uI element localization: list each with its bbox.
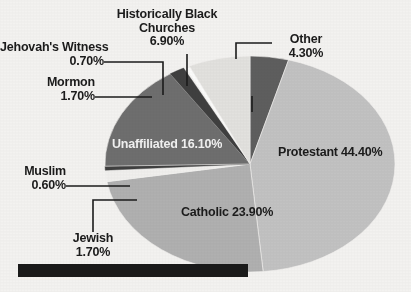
label-catholic-name: Catholic: [181, 205, 229, 219]
label-protestant: Protestant 44.40%: [278, 145, 362, 159]
label-mormon: Mormon 1.70%: [0, 76, 95, 103]
pie-chart-figure: Historically Black Churches 6.90% Other …: [0, 0, 411, 292]
label-protestant-pct: 44.40%: [341, 145, 382, 159]
label-jehovahs-witness-name: Jehovah's Witness: [0, 40, 109, 54]
label-jewish-pct: 1.70%: [56, 246, 130, 260]
label-jewish-name: Jewish: [73, 231, 114, 245]
pie-slices: [105, 56, 395, 272]
label-muslim: Muslim 0.60%: [0, 165, 66, 192]
label-jehovahs-witness: Jehovah's Witness 0.70%: [0, 41, 104, 68]
redaction-bar: [18, 264, 248, 277]
label-other-pct: 4.30%: [270, 47, 342, 61]
label-unaffiliated-pct: 16.10%: [181, 137, 222, 151]
label-unaffiliated-name: Unaffiliated: [112, 137, 178, 151]
label-jewish: Jewish 1.70%: [56, 232, 130, 259]
label-catholic: Catholic 23.90%: [181, 205, 261, 219]
label-protestant-name: Protestant: [278, 145, 338, 159]
label-mormon-pct: 1.70%: [0, 90, 95, 104]
label-other-name: Other: [290, 32, 322, 46]
label-muslim-pct: 0.60%: [0, 179, 66, 193]
label-jehovahs-witness-pct: 0.70%: [0, 55, 104, 69]
label-unaffiliated: Unaffiliated 16.10%: [112, 137, 216, 151]
label-historically-black-churches: Historically Black Churches 6.90%: [108, 8, 226, 49]
label-historically-black-churches-line1: Historically Black: [117, 7, 218, 21]
label-historically-black-churches-line2: Churches: [108, 22, 226, 36]
label-catholic-pct: 23.90%: [232, 205, 273, 219]
label-muslim-name: Muslim: [24, 164, 66, 178]
label-other: Other 4.30%: [270, 33, 342, 60]
label-historically-black-churches-pct: 6.90%: [108, 35, 226, 49]
label-mormon-name: Mormon: [47, 75, 95, 89]
